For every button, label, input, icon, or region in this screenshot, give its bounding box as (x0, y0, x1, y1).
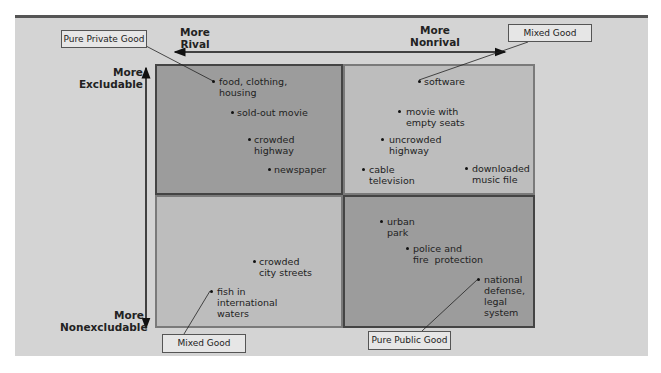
item-dot (212, 80, 215, 83)
axis-label-more-nonrival: More Nonrival (400, 24, 470, 48)
item-dot (248, 138, 251, 141)
callout-pure-public-good: Pure Public Good (368, 331, 451, 350)
item-dot (253, 260, 256, 263)
item-downloaded-music-file: downloaded music file (472, 163, 530, 185)
item-dot (362, 168, 365, 171)
item-national-defense-legal-system: national defense, legal system (484, 274, 525, 318)
item-dot (380, 220, 383, 223)
item-software: software (424, 76, 465, 87)
item-dot (465, 167, 468, 170)
axis-text: More Excludable (79, 66, 143, 90)
item-dot (418, 80, 421, 83)
item-urban-park: urban park (387, 216, 415, 238)
axis-text: More Nonexcludable (60, 309, 148, 333)
item-uncrowded-highway: uncrowded highway (389, 134, 441, 156)
item-food-clothing-housing: food, clothing, housing (219, 76, 287, 98)
item-dot (231, 111, 234, 114)
item-dot (268, 168, 271, 171)
callout-mixed-good-bottom: Mixed Good (162, 334, 246, 353)
item-newspaper: newspaper (274, 164, 326, 175)
item-dot (477, 278, 480, 281)
item-dot (406, 247, 409, 250)
axis-label-more-excludable: More Excludable (75, 66, 143, 90)
axis-text: More Nonrival (410, 24, 460, 48)
axis-label-more-nonexcludable: More Nonexcludable (60, 309, 144, 333)
item-crowded-city-streets: crowded city streets (259, 256, 312, 278)
item-dot (398, 110, 401, 113)
callout-mixed-good-top: Mixed Good (508, 24, 592, 42)
item-sold-out-movie: sold-out movie (237, 107, 308, 118)
callout-pure-private-good: Pure Private Good (61, 30, 147, 48)
item-dot (210, 290, 213, 293)
item-fish-international-waters: fish in international waters (217, 286, 277, 319)
item-dot (381, 138, 384, 141)
axis-label-more-rival: More Rival (170, 26, 220, 50)
item-crowded-highway: crowded highway (254, 134, 294, 156)
item-police-fire-protection: police and fire protection (413, 243, 483, 265)
axis-text: More Rival (180, 26, 210, 50)
item-movie-empty-seats: movie with empty seats (406, 106, 465, 128)
item-cable-television: cable television (369, 164, 415, 186)
